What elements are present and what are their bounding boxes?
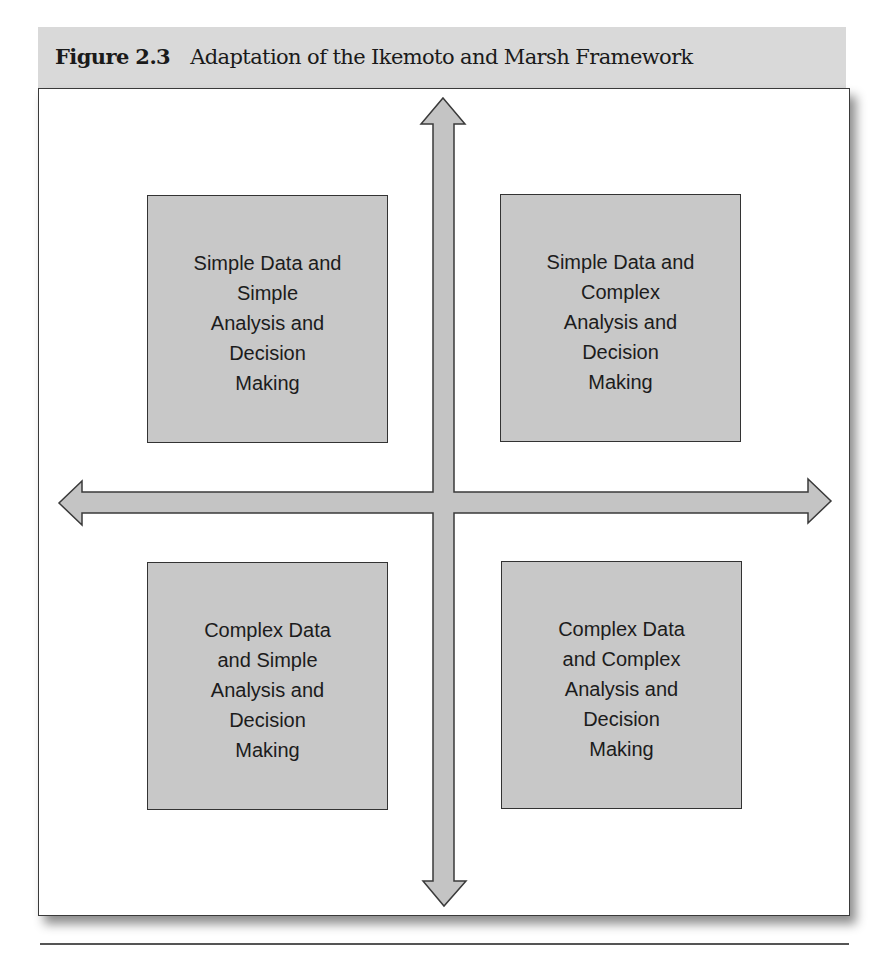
quadrant-label: Simple Data and Complex Analysis and Dec… bbox=[531, 247, 711, 397]
quadrant-simple-data-simple-analysis: Simple Data and Simple Analysis and Deci… bbox=[147, 195, 388, 443]
quadrant-label-line: Decision bbox=[178, 705, 358, 735]
quadrant-label-line: Simple Data and bbox=[178, 248, 358, 278]
quadrant-label-line: Complex bbox=[531, 277, 711, 307]
figure-bottom-rule bbox=[40, 943, 849, 945]
quadrant-complex-data-simple-analysis: Complex Data and Simple Analysis and Dec… bbox=[147, 562, 388, 810]
quadrant-label-line: Complex Data bbox=[532, 614, 712, 644]
quadrant-label: Simple Data and Simple Analysis and Deci… bbox=[178, 248, 358, 398]
quadrant-label-line: Making bbox=[178, 735, 358, 765]
quadrant-label: Complex Data and Simple Analysis and Dec… bbox=[178, 615, 358, 765]
figure-title: Adaptation of the Ikemoto and Marsh Fram… bbox=[190, 45, 693, 69]
quadrant-label-line: Making bbox=[531, 367, 711, 397]
quadrant-label-line: Analysis and bbox=[178, 308, 358, 338]
quadrant-label-line: Analysis and bbox=[531, 307, 711, 337]
quadrant-simple-data-complex-analysis: Simple Data and Complex Analysis and Dec… bbox=[500, 194, 741, 442]
quadrant-label-line: Decision bbox=[532, 704, 712, 734]
quadrant-label-line: Analysis and bbox=[178, 675, 358, 705]
quadrant-label-line: Analysis and bbox=[532, 674, 712, 704]
quadrant-complex-data-complex-analysis: Complex Data and Complex Analysis and De… bbox=[501, 561, 742, 809]
figure-title-banner: Figure 2.3 Adaptation of the Ikemoto and… bbox=[38, 27, 846, 88]
quadrant-label-line: and Simple bbox=[178, 645, 358, 675]
quadrant-label-line: Complex Data bbox=[178, 615, 358, 645]
quadrant-label-line: and Complex bbox=[532, 644, 712, 674]
quadrant-label-line: Simple Data and bbox=[531, 247, 711, 277]
figure-number: Figure 2.3 bbox=[55, 44, 170, 69]
quadrant-label-line: Making bbox=[178, 368, 358, 398]
quadrant-label-line: Making bbox=[532, 734, 712, 764]
quadrant-label-line: Decision bbox=[531, 337, 711, 367]
quadrant-label-line: Decision bbox=[178, 338, 358, 368]
quadrant-label: Complex Data and Complex Analysis and De… bbox=[532, 614, 712, 764]
quadrant-label-line: Simple bbox=[178, 278, 358, 308]
